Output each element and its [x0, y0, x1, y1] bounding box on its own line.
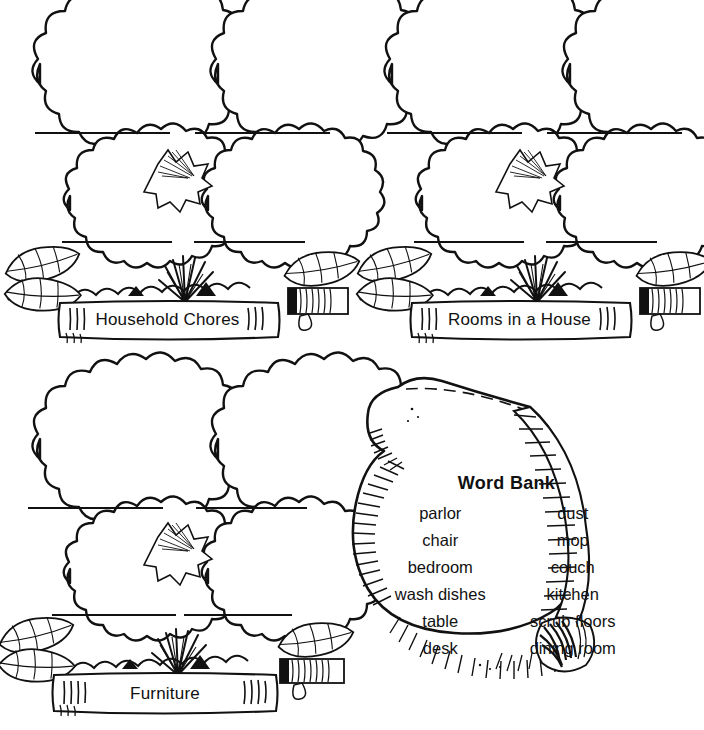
word-bank-content: Word Bank parlor dust chair mop bedroom … — [374, 473, 639, 661]
word-bank: Word Bank parlor dust chair mop bedroom … — [352, 365, 704, 730]
bush-cluster-rooms-in-a-house: Rooms in a House — [352, 0, 704, 365]
word-bank-grid: parlor dust chair mop bedroom couch wash… — [374, 501, 639, 661]
word-bank-word: wash dishes — [374, 582, 507, 607]
word-bank-title: Word Bank — [374, 473, 639, 494]
word-bank-word: desk — [374, 636, 507, 661]
bush-cluster-artwork — [0, 0, 352, 365]
bush-cluster-household-chores: Household Chores — [0, 0, 352, 365]
bush-cluster-artwork — [0, 365, 352, 730]
word-bank-word: couch — [507, 555, 640, 580]
worksheet-page: Household Chores — [0, 0, 704, 730]
word-bank-word: bedroom — [374, 555, 507, 580]
word-bank-word: table — [374, 609, 507, 634]
word-bank-word: chair — [374, 528, 507, 553]
word-bank-word: parlor — [374, 501, 507, 526]
word-bank-word: scrub floors — [507, 609, 640, 634]
word-bank-word: kitchen — [507, 582, 640, 607]
bush-cluster-artwork — [352, 0, 704, 365]
word-bank-word: dining room — [507, 636, 640, 661]
bush-cluster-furniture: Furniture — [0, 365, 352, 730]
word-bank-word: mop — [507, 528, 640, 553]
word-bank-word: dust — [507, 501, 640, 526]
